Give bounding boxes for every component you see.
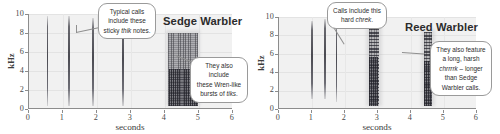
spectrogram-figure: 10 8 6 4 2 0 kHz 0 1 2 3 4 5 6 seconds S… <box>0 0 500 134</box>
callout-line: these Wren-like <box>195 80 243 89</box>
callout-line: than Sedge <box>435 73 487 82</box>
xtick-label-4: 4 <box>404 113 416 122</box>
xtick-label-4: 4 <box>158 113 170 122</box>
ytick-mark-4 <box>25 71 28 72</box>
callout-line: They also feature <box>435 45 487 54</box>
callout-tiks-burst: They also include these Wren-like bursts… <box>190 57 248 103</box>
ytick-label-10: 10 <box>10 9 24 18</box>
callout-line-italic: sticky thik notes. <box>103 26 151 35</box>
callout-line: a long, harsh <box>435 54 487 63</box>
gridline-v-2 <box>345 17 346 108</box>
leader-line-thik-hook <box>76 25 77 33</box>
ytick-label-0: 0 <box>260 104 274 113</box>
callout-line-italic: bursts of tiks. <box>195 89 243 98</box>
ytick-label-10: 10 <box>260 12 274 21</box>
ytick-mark-10 <box>25 14 28 15</box>
ytick-mark-10 <box>275 17 278 18</box>
xtick-label-6: 6 <box>226 113 238 122</box>
callout-chrek: Calls include this hard chrek. <box>327 2 387 29</box>
ytick-mark-4 <box>275 72 278 73</box>
callout-line: They also include <box>195 61 243 80</box>
spectro-event-thik-2 <box>68 16 70 106</box>
xtick-label-3: 3 <box>124 113 136 122</box>
ytick-mark-6 <box>275 54 278 55</box>
spectro-event-chrek-1 <box>311 21 313 99</box>
ytick-label-2: 2 <box>260 85 274 94</box>
x-axis-title: seconds <box>88 122 172 132</box>
callout-line: include these <box>103 16 151 25</box>
x-axis-title: seconds <box>335 122 419 132</box>
ytick-mark-2 <box>275 91 278 92</box>
callout-chrrrrk: They also feature a long, harsh chrrrrk … <box>430 41 492 96</box>
spectro-event-chrek-2 <box>324 19 326 99</box>
species-title-sedge: Sedge Warbler <box>163 15 242 27</box>
xtick-label-6: 6 <box>470 113 482 122</box>
ytick-mark-6 <box>25 52 28 53</box>
xtick-label-2: 2 <box>90 113 102 122</box>
ytick-label-2: 2 <box>10 85 24 94</box>
callout-line: Warbler calls. <box>435 83 487 92</box>
y-axis-title: kHz <box>256 45 266 81</box>
callout-line: Calls include this <box>332 6 382 15</box>
callout-line: Typical calls <box>103 7 151 16</box>
ytick-label-8: 8 <box>10 28 24 37</box>
spectro-event-thik-3 <box>92 18 94 106</box>
xtick-label-0: 0 <box>22 113 34 122</box>
xtick-label-0: 0 <box>272 113 284 122</box>
ytick-mark-2 <box>25 90 28 91</box>
ytick-mark-8 <box>25 33 28 34</box>
spectro-event-thik-1 <box>47 16 49 106</box>
ytick-label-0: 0 <box>10 104 24 113</box>
callout-line-italic: hard chrek. <box>332 15 382 24</box>
callout-thik-note: Typical calls include these sticky thik … <box>98 3 156 39</box>
xtick-label-1: 1 <box>305 113 317 122</box>
xtick-label-5: 5 <box>192 113 204 122</box>
ytick-mark-8 <box>275 35 278 36</box>
ytick-label-8: 8 <box>260 30 274 39</box>
panel-reed-warbler: 10 8 6 4 2 0 kHz 0 1 2 3 4 5 6 seconds R… <box>250 0 500 134</box>
panel-sedge-warbler: 10 8 6 4 2 0 kHz 0 1 2 3 4 5 6 seconds S… <box>0 0 250 134</box>
gridline-v-1 <box>63 14 64 108</box>
xtick-label-5: 5 <box>437 113 449 122</box>
callout-line-italic: chrrrrk – longer <box>435 64 487 73</box>
xtick-label-1: 1 <box>56 113 68 122</box>
xtick-label-2: 2 <box>338 113 350 122</box>
spectro-event-chrrrrk-1-core <box>369 57 378 106</box>
y-axis-title: kHz <box>6 43 16 79</box>
species-title-reed: Reed Warbler <box>405 21 478 33</box>
xtick-label-3: 3 <box>371 113 383 122</box>
